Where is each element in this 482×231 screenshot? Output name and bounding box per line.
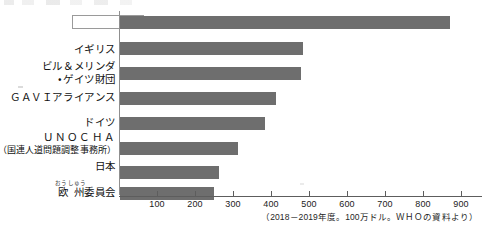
axis-tick-label-100: 100	[149, 199, 165, 209]
horizontal-bar-chart: イギリス ビル＆メリンダ ・ゲイツ財団 ＧＡＶＩアライアンス ドイツ ＵＮＯＣＨ…	[0, 0, 482, 231]
bar-gavi	[120, 92, 276, 105]
category-label-ec-rest: 委員会	[84, 186, 116, 198]
axis-tick-label-800: 800	[415, 199, 431, 209]
axis-tick-label-900: 900	[453, 199, 469, 209]
bar-unocha	[120, 142, 238, 155]
category-label-ec-ruby-group: 欧州おうしゅう	[55, 186, 84, 198]
axis-tick-label-400: 400	[263, 199, 279, 209]
category-label-unocha-line2: （国連人道問題調整事務所）	[0, 144, 116, 156]
axis-tick-100	[157, 191, 158, 197]
category-label-gates: ビル＆メリンダ ・ゲイツ財団	[42, 60, 116, 85]
bar-germany	[120, 117, 265, 130]
category-label-ec: 欧州おうしゅう委員会	[55, 180, 116, 198]
scan-artifact-strip	[4, 0, 154, 5]
axis-tick-600	[347, 191, 348, 197]
axis-tick-label-600: 600	[339, 199, 355, 209]
axis-tick-500	[309, 191, 310, 197]
category-label-unocha: ＵＮＯＣＨＡ （国連人道問題調整事務所）	[0, 131, 116, 156]
bar-uk	[120, 42, 303, 55]
value-axis-line	[119, 196, 482, 197]
axis-tick-700	[385, 191, 386, 197]
axis-tick-400	[271, 191, 272, 197]
category-label-germany: ドイツ	[84, 116, 116, 128]
category-label-uk: イギリス	[74, 43, 116, 55]
axis-tick-label-700: 700	[377, 199, 393, 209]
category-label-germany-text: ドイツ	[84, 116, 116, 128]
axis-tick-800	[423, 191, 424, 197]
axis-tick-label-500: 500	[301, 199, 317, 209]
category-label-uk-text: イギリス	[74, 43, 116, 55]
category-label-gavi: ＧＡＶＩアライアンス	[10, 91, 116, 103]
category-label-gates-line1: ビル＆メリンダ	[42, 60, 116, 72]
axis-tick-label-200: 200	[187, 199, 203, 209]
scan-speck	[18, 86, 23, 88]
category-label-gates-line2: ・ゲイツ財団	[42, 73, 116, 85]
category-label-japan: 日本	[95, 160, 116, 172]
category-label-unocha-line1: ＵＮＯＣＨＡ	[43, 131, 116, 143]
bar-japan	[120, 166, 219, 179]
axis-tick-300	[233, 191, 234, 197]
bar-gates	[120, 67, 301, 80]
category-label-gavi-text: ＧＡＶＩアライアンス	[10, 91, 116, 103]
category-label-ec-furigana: おうしゅう	[55, 180, 87, 186]
axis-tick-label-300: 300	[225, 199, 241, 209]
source-note: （2018－2019年度。100万ドル。ＷＨＯの資料より）	[261, 210, 478, 222]
category-label-ec-base: 欧州	[55, 186, 87, 198]
category-label-japan-text: 日本	[95, 160, 116, 172]
axis-tick-200	[195, 191, 196, 197]
plot-area	[119, 11, 482, 195]
axis-tick-900	[461, 191, 462, 197]
bar-blank	[120, 16, 450, 29]
